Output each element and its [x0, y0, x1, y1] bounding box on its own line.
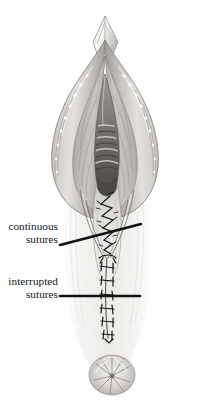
callout-continuous-sutures: continuous sutures [0, 220, 58, 245]
callout-continuous-line2: sutures [0, 233, 58, 246]
callout-interrupted-line2: sutures [0, 288, 58, 301]
callout-continuous-line1: continuous [0, 220, 58, 233]
perineal-anatomy-illustration [0, 0, 211, 411]
callout-interrupted-line1: interrupted [0, 275, 58, 288]
callout-interrupted-sutures: interrupted sutures [0, 275, 58, 300]
illustration-canvas: continuous sutures interrupted sutures [0, 0, 211, 411]
anus [89, 355, 135, 395]
